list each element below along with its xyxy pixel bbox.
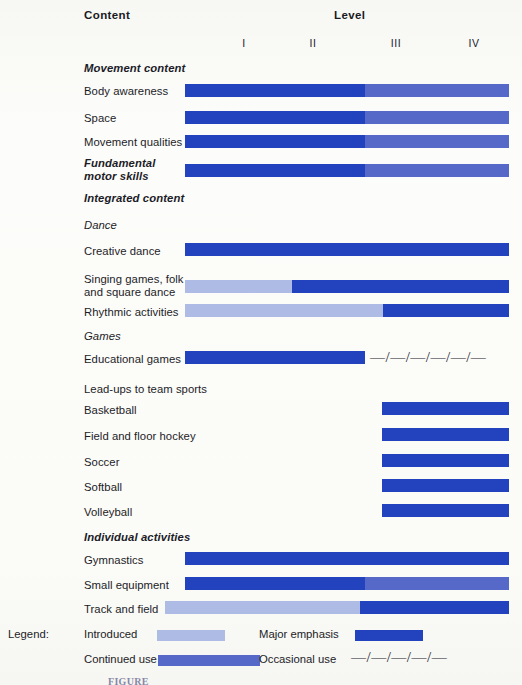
row-label: Educational games	[84, 353, 181, 366]
figure-canvas: Content Level IIIIIIIV Movement contentB…	[0, 0, 522, 685]
bar-segment-major-emphasis	[185, 577, 365, 590]
emphasis-bar	[382, 479, 509, 492]
row-label: Basketball	[84, 404, 137, 417]
emphasis-bar	[185, 351, 365, 364]
legend-swatch-major-emphasis	[355, 630, 423, 641]
legend-label: Continued use	[84, 653, 157, 665]
row-label: Small equipment	[84, 579, 169, 592]
row-label: Movement content	[84, 62, 185, 75]
emphasis-bar	[185, 280, 509, 293]
legend-label: Major emphasis	[259, 628, 339, 640]
bar-segment-major-emphasis	[185, 243, 509, 256]
row-label: Softball	[84, 481, 122, 494]
emphasis-bar	[382, 454, 509, 467]
row-label: Gymnastics	[84, 554, 144, 567]
row-label: Movement qualities	[84, 136, 182, 149]
bar-segment-major-emphasis	[383, 304, 509, 317]
bar-segment-major-emphasis	[360, 601, 509, 614]
emphasis-bar	[185, 552, 509, 565]
emphasis-bar	[185, 111, 509, 124]
row-label: Individual activities	[84, 531, 190, 544]
row-label: Space	[84, 112, 116, 125]
row-label: Field and floor hockey	[84, 430, 196, 443]
legend-swatch-continued-use	[158, 655, 260, 666]
bar-segment-major-emphasis	[382, 479, 509, 492]
emphasis-bar	[185, 304, 509, 317]
content-rows: Movement contentBody awarenessSpaceMovem…	[0, 0, 522, 685]
legend-label-occasional-use: Occasional use	[259, 653, 336, 665]
bar-segment-major-emphasis	[382, 504, 509, 517]
legend-title: Legend:	[8, 628, 49, 640]
emphasis-bar	[382, 428, 509, 441]
bar-segment-major-emphasis	[185, 164, 365, 177]
bar-segment-major-emphasis	[185, 111, 365, 124]
row-label: Lead-ups to team sports	[84, 383, 207, 396]
legend-swatch-occasional-use: —/—/—/—/—	[351, 649, 447, 666]
legend-swatch-introduced	[157, 630, 225, 641]
bar-segment-continued-use	[365, 577, 509, 590]
bar-segment-continued-use	[365, 164, 509, 177]
row-label: Track and field	[84, 603, 158, 616]
emphasis-bar	[165, 601, 509, 614]
bar-segment-introduced	[165, 601, 360, 614]
row-label: Singing games, folk and square dance	[84, 273, 184, 300]
bar-segment-major-emphasis	[382, 402, 509, 415]
row-label: Body awareness	[84, 85, 168, 98]
bar-segment-continued-use	[365, 84, 509, 97]
bar-segment-major-emphasis	[185, 135, 365, 148]
bar-segment-introduced	[185, 304, 383, 317]
emphasis-bar	[185, 243, 509, 256]
bar-segment-continued-use	[365, 111, 509, 124]
bar-segment-introduced	[185, 280, 292, 293]
bar-segment-major-emphasis	[185, 552, 509, 565]
row-label: Games	[84, 330, 121, 343]
occasional-use-dashes: —/—/—/—/—/—	[370, 350, 486, 364]
emphasis-bar	[185, 577, 509, 590]
row-label: Creative dance	[84, 245, 161, 258]
bar-segment-major-emphasis	[382, 428, 509, 441]
row-label: Fundamental motor skills	[84, 157, 155, 184]
bar-segment-major-emphasis	[185, 84, 365, 97]
bar-segment-major-emphasis	[382, 454, 509, 467]
emphasis-bar	[185, 135, 509, 148]
bar-segment-continued-use	[365, 135, 509, 148]
row-label: Integrated content	[84, 192, 184, 205]
emphasis-bar	[382, 402, 509, 415]
bar-segment-major-emphasis	[185, 351, 365, 364]
legend-label: Introduced	[84, 628, 137, 640]
emphasis-bar	[185, 164, 509, 177]
emphasis-bar	[382, 504, 509, 517]
emphasis-bar	[185, 84, 509, 97]
row-label: Soccer	[84, 456, 119, 469]
row-label: Dance	[84, 219, 117, 232]
bar-segment-major-emphasis	[292, 280, 509, 293]
figure-caption: FIGURE	[108, 676, 149, 685]
row-label: Volleyball	[84, 506, 132, 519]
row-label: Rhythmic activities	[84, 306, 179, 319]
legend: Legend: IntroducedMajor emphasisContinue…	[0, 620, 522, 678]
